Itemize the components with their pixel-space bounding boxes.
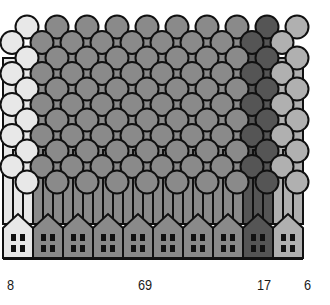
label-category-d: 6 bbox=[304, 276, 311, 293]
pictogram-chart bbox=[0, 0, 330, 270]
tree-circle bbox=[286, 171, 309, 194]
tree-circle bbox=[46, 171, 69, 194]
label-category-a: 8 bbox=[7, 276, 14, 293]
tree-circle bbox=[166, 171, 189, 194]
tree-circle bbox=[16, 171, 39, 194]
tree-circle bbox=[196, 171, 219, 194]
tree-circle bbox=[76, 171, 99, 194]
label-category-b: 69 bbox=[138, 276, 152, 293]
tree-circle bbox=[106, 171, 129, 194]
tree-circle bbox=[136, 171, 159, 194]
label-category-c: 17 bbox=[257, 276, 271, 293]
tree-circle bbox=[256, 171, 279, 194]
tree-circle bbox=[226, 171, 249, 194]
